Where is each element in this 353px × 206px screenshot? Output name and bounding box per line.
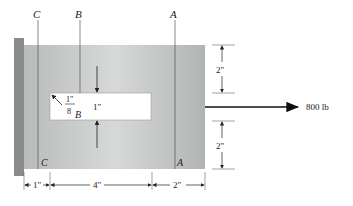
label-a-bottom: A <box>176 157 184 168</box>
dim-bottom-right: 2" <box>216 141 225 151</box>
force-label: 800 lb <box>306 102 329 112</box>
label-b-bottom: B <box>75 109 81 120</box>
wall-support <box>14 38 24 176</box>
label-c-top: C <box>33 8 41 20</box>
dim-4: 4" <box>93 180 102 190</box>
label-b-top: B <box>75 8 82 20</box>
fillet-num: 1" <box>66 95 73 104</box>
slot-height-label: 1" <box>93 102 102 112</box>
dim-top-right: 2" <box>216 65 225 75</box>
dim-2: 2" <box>173 180 182 190</box>
label-a-top: A <box>169 8 177 20</box>
fillet-den: 8 <box>67 107 71 116</box>
dim-1: 1" <box>33 180 42 190</box>
slotted-plate-diagram: C B A C B A 1" 8 1" 2" 2" 1" 4" 2" 800 l… <box>0 0 353 206</box>
label-c-bottom: C <box>41 157 48 168</box>
